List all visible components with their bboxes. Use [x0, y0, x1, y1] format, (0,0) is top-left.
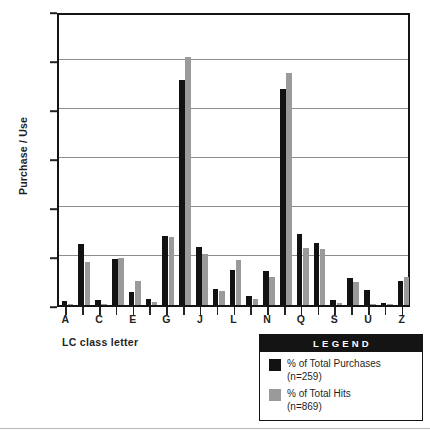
- bar-purchases-r: [314, 243, 320, 305]
- legend-swatch-hits: [269, 389, 281, 401]
- gridline: [59, 59, 408, 60]
- legend-sublabel: (n=869): [287, 401, 351, 414]
- x-axis-tick-mark: [385, 307, 387, 315]
- y-axis-tick-mark: [50, 306, 57, 308]
- bar-purchases-q: [297, 234, 303, 305]
- y-axis-tick-mark: [50, 12, 57, 14]
- plot-inner: [59, 15, 408, 305]
- bar-purchases-c: [95, 300, 101, 305]
- bar-hits-f: [152, 302, 158, 305]
- gridline: [59, 206, 408, 207]
- plot-area: [57, 13, 410, 307]
- bar-purchases-b: [78, 244, 84, 305]
- x-axis-tick-mark: [318, 307, 320, 315]
- bar-hits-q: [303, 248, 309, 305]
- bar-purchases-t: [347, 278, 353, 305]
- x-axis-tick-label-j: J: [189, 313, 211, 325]
- bar-purchases-n: [263, 271, 269, 305]
- legend-item: % of Total Hits(n=869): [269, 388, 415, 413]
- x-axis-tick-mark: [217, 307, 219, 315]
- bar-hits-t: [353, 282, 359, 305]
- x-axis-tick-label-z: Z: [391, 313, 413, 325]
- bar-purchases-e: [129, 292, 135, 305]
- x-axis-tick-label-s: S: [323, 313, 345, 325]
- bar-purchases-u: [364, 290, 370, 305]
- bar-hits-v: [387, 304, 393, 305]
- gridline: [59, 255, 408, 256]
- bar-hits-p: [286, 73, 292, 305]
- x-axis-tick-mark: [116, 307, 118, 315]
- y-axis-tick-mark: [50, 110, 57, 112]
- x-axis-tick-label-c: C: [88, 313, 110, 325]
- legend-label: % of Total Purchases(n=259): [287, 358, 381, 383]
- y-axis-tick-mark: [50, 159, 57, 161]
- gridline: [59, 157, 408, 158]
- bar-hits-a: [68, 304, 74, 305]
- x-axis-tick-label-e: E: [122, 313, 144, 325]
- bar-hits-j: [202, 254, 208, 305]
- bar-purchases-d: [112, 259, 118, 305]
- y-axis-tick-mark: [50, 257, 57, 259]
- bar-purchases-v: [381, 303, 387, 305]
- bar-purchases-h: [179, 80, 185, 305]
- gridline: [59, 108, 408, 109]
- bar-hits-g: [169, 237, 175, 305]
- y-axis-title: Purchase / Use: [17, 86, 29, 226]
- page-bottom-rule: [0, 428, 430, 429]
- bar-hits-d: [118, 258, 124, 305]
- bar-purchases-l: [230, 270, 236, 305]
- bar-hits-z: [404, 277, 410, 305]
- bar-hits-n: [269, 277, 275, 305]
- x-axis-tick-label-a: A: [54, 313, 76, 325]
- legend-swatch-purchases: [269, 359, 281, 371]
- bar-hits-b: [85, 262, 91, 305]
- bar-hits-s: [337, 303, 343, 305]
- x-axis-tick-label-l: L: [223, 313, 245, 325]
- x-axis-tick-mark: [183, 307, 185, 315]
- bar-hits-e: [135, 281, 141, 306]
- y-axis-tick-mark: [50, 61, 57, 63]
- bar-purchases-s: [330, 300, 336, 305]
- bar-hits-l: [236, 260, 242, 305]
- x-axis-tick-mark: [82, 307, 84, 315]
- bar-hits-h: [185, 57, 191, 305]
- x-axis-tick-label-q: Q: [290, 313, 312, 325]
- legend: LEGEND % of Total Purchases(n=259)% of T…: [259, 334, 423, 421]
- chart-figure: Purchase / Use LC class letter LEGEND % …: [0, 0, 430, 441]
- x-axis-tick-label-g: G: [155, 313, 177, 325]
- y-axis-tick-mark: [50, 208, 57, 210]
- bar-purchases-f: [146, 299, 152, 305]
- legend-item: % of Total Purchases(n=259): [269, 358, 415, 383]
- bar-hits-u: [370, 304, 376, 305]
- bar-hits-k: [219, 291, 225, 305]
- x-axis-tick-mark: [149, 307, 151, 315]
- legend-sublabel: (n=259): [287, 371, 381, 384]
- bar-purchases-k: [213, 289, 219, 305]
- x-axis-title: LC class letter: [62, 336, 138, 348]
- bar-hits-m: [253, 299, 259, 305]
- x-axis-tick-mark: [284, 307, 286, 315]
- x-axis-tick-label-u: U: [357, 313, 379, 325]
- x-axis-tick-mark: [250, 307, 252, 315]
- bar-purchases-j: [196, 247, 202, 305]
- bar-purchases-g: [162, 236, 168, 305]
- bar-purchases-z: [398, 281, 404, 305]
- legend-title: LEGEND: [260, 335, 422, 352]
- x-axis-tick-mark: [351, 307, 353, 315]
- bar-hits-c: [101, 304, 107, 305]
- x-axis-tick-label-n: N: [256, 313, 278, 325]
- bar-purchases-p: [280, 89, 286, 305]
- bar-purchases-a: [62, 301, 68, 305]
- legend-label: % of Total Hits(n=869): [287, 388, 351, 413]
- bar-purchases-m: [246, 296, 252, 305]
- legend-body: % of Total Purchases(n=259)% of Total Hi…: [260, 352, 422, 420]
- bar-hits-r: [320, 249, 326, 305]
